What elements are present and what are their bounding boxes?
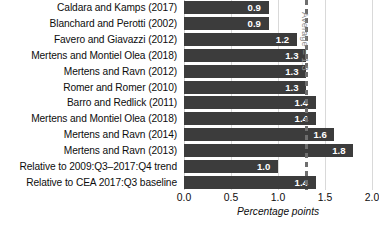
bar-value-label: 1.8 <box>332 144 345 157</box>
bar-row: 1.2 <box>184 33 372 46</box>
bar-row: 1.0 <box>184 160 372 173</box>
x-tick-label: 1.5 <box>318 192 332 203</box>
bar-value-label: 1.0 <box>257 160 270 173</box>
category-label: Relative to 2009:Q3–2017:Q4 trend <box>19 160 177 174</box>
category-label: Relative to CEA 2017:Q3 baseline <box>26 176 177 190</box>
gridline <box>372 0 373 190</box>
category-label: Favero and Giavazzi (2012) <box>54 33 177 47</box>
bar-row: 1.3 <box>184 81 372 94</box>
bar <box>184 128 334 141</box>
x-axis-title: Percentage points <box>184 206 372 217</box>
category-label: Mertens and Montiel Olea (2018) <box>31 112 177 126</box>
bar-value-label: 0.9 <box>248 1 261 14</box>
bar-value-label: 0.9 <box>248 17 261 30</box>
bar-row: 1.8 <box>184 144 372 157</box>
category-label: Romer and Romer (2010) <box>63 81 177 95</box>
x-tick-label: 0.5 <box>224 192 238 203</box>
plot-area: 0.90.91.21.31.31.31.41.41.61.81.01.4 Ave… <box>184 0 372 190</box>
bar-value-label: 1.2 <box>276 33 289 46</box>
category-label: Mertens and Ravn (2013) <box>64 144 177 158</box>
bar-row: 1.6 <box>184 128 372 141</box>
bar-row: 1.3 <box>184 49 372 62</box>
bar-value-label: 1.3 <box>285 65 298 78</box>
bar <box>184 144 353 157</box>
x-tick-label: 1.0 <box>271 192 285 203</box>
bar-value-label: 1.3 <box>285 49 298 62</box>
category-label: Caldara and Kamps (2017) <box>57 1 177 15</box>
bar-row: 0.9 <box>184 1 372 14</box>
bar-row: 1.3 <box>184 65 372 78</box>
category-label: Mertens and Montiel Olea (2018) <box>31 49 177 63</box>
bar-value-label: 1.3 <box>285 81 298 94</box>
average-line-label: Average = 1.3 <box>300 12 310 71</box>
bar-row: 1.4 <box>184 112 372 125</box>
category-label-column: Caldara and Kamps (2017)Blanchard and Pe… <box>0 0 181 190</box>
x-axis: 0.00.51.01.52.0 Percentage points <box>184 190 372 227</box>
x-tick-label: 2.0 <box>365 192 379 203</box>
bar-value-label: 1.6 <box>313 128 326 141</box>
category-label: Mertens and Ravn (2014) <box>64 128 177 142</box>
bar-row: 1.4 <box>184 176 372 189</box>
category-label: Mertens and Ravn (2012) <box>64 65 177 79</box>
x-tick-label: 0.0 <box>177 192 191 203</box>
category-label: Blanchard and Perotti (2002) <box>50 17 177 31</box>
bar-row: 1.4 <box>184 96 372 109</box>
category-label: Barro and Redlick (2011) <box>67 96 177 110</box>
bar-row: 0.9 <box>184 17 372 30</box>
